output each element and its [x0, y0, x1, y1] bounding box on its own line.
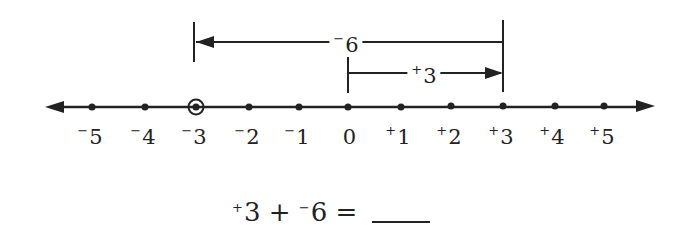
answer-blank[interactable] — [372, 221, 430, 223]
minus6-arrow-label: −6 — [329, 32, 362, 56]
equation: +3 + −6 = — [232, 199, 430, 225]
tick-num: 0 — [343, 125, 356, 149]
tick-label-0: 0 — [342, 124, 356, 148]
label-sign: + — [411, 62, 422, 77]
tick-sign: + — [385, 123, 396, 138]
tick-sign: − — [181, 123, 192, 138]
tick-sign: + — [488, 123, 499, 138]
plus3-arrow-label: +3 — [407, 63, 440, 87]
plus-operator: + — [269, 197, 291, 227]
addend2-sign: − — [299, 200, 310, 215]
tick-label-pos4: +4 — [539, 124, 564, 148]
label-sign: − — [333, 31, 344, 46]
tick-label-neg2: −2 — [234, 124, 259, 148]
tick-sign: − — [77, 123, 88, 138]
tick-label-neg3: −3 — [181, 124, 206, 148]
tick-num: 2 — [246, 125, 259, 149]
label-num: 3 — [423, 64, 436, 88]
tick-sign: + — [589, 123, 600, 138]
tick-sign: + — [539, 123, 550, 138]
tick-label-pos2: +2 — [436, 124, 461, 148]
left-arrowhead-icon — [45, 101, 64, 113]
tick-num: 1 — [296, 125, 309, 149]
addend1-sign: + — [232, 200, 243, 215]
tick-sign: − — [284, 123, 295, 138]
tick-num: 3 — [500, 125, 513, 149]
label-num: 6 — [345, 33, 358, 57]
tick-sign: − — [130, 123, 141, 138]
tick-num: 3 — [193, 125, 206, 149]
tick-sign: + — [436, 123, 447, 138]
tick-label-neg1: −1 — [284, 124, 309, 148]
minus6-arrowhead-icon — [196, 36, 214, 48]
tick-num: 5 — [89, 125, 102, 149]
tick-label-neg4: −4 — [130, 124, 155, 148]
equals-sign: = — [336, 197, 358, 227]
tick-num: 2 — [448, 125, 461, 149]
tick-num: 4 — [142, 125, 155, 149]
plus3-arrowhead-icon — [485, 67, 503, 79]
addend1-num: 3 — [244, 197, 261, 227]
tick-num: 4 — [551, 125, 564, 149]
tick-label-pos1: +1 — [385, 124, 410, 148]
tick-sign: − — [234, 123, 245, 138]
tick-num: 5 — [601, 125, 614, 149]
tick-label-pos5: +5 — [589, 124, 614, 148]
addend2-num: 6 — [311, 197, 328, 227]
tick-num: 1 — [397, 125, 410, 149]
tick-label-pos3: +3 — [488, 124, 513, 148]
tick-label-neg5: −5 — [77, 124, 102, 148]
right-arrowhead-icon — [636, 100, 655, 112]
